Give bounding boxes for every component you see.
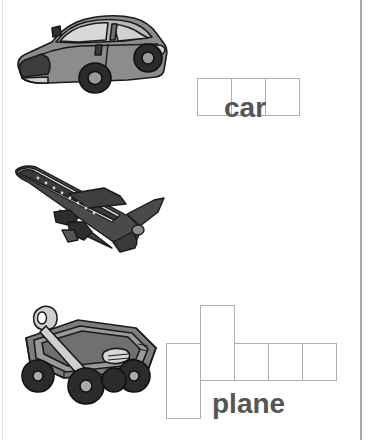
car-illustration [8,0,173,148]
worksheet-page: car [0,0,375,440]
worksheet-row-wagon: wagon [0,296,360,440]
page-right-margin [362,0,375,440]
wagon-illustration [8,296,173,440]
plane-illustration [8,148,173,296]
worksheet-row-car: car [0,0,360,148]
worksheet-row-plane: plane [0,148,360,296]
word-label-car: car [224,92,266,124]
letter-box[interactable] [265,78,300,116]
